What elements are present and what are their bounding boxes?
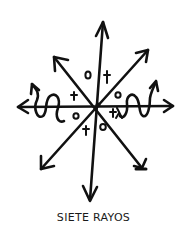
mark-dagger-upper-right bbox=[104, 71, 110, 83]
mark-o-left-lower bbox=[73, 113, 78, 119]
mark-o-lower-right bbox=[100, 124, 106, 130]
mark-plus-lambda bbox=[110, 108, 122, 118]
mark-dagger-lower-left bbox=[83, 126, 89, 135]
mark-dagger-left-upper bbox=[71, 92, 77, 100]
siete-rayos-figure bbox=[0, 0, 187, 235]
mark-zero-upper bbox=[85, 71, 90, 78]
mark-o-right-upper bbox=[115, 92, 120, 98]
seven-rays-symbol-icon bbox=[0, 0, 187, 235]
center-point bbox=[96, 103, 101, 108]
caption-title: SIETE RAYOS bbox=[0, 211, 187, 224]
